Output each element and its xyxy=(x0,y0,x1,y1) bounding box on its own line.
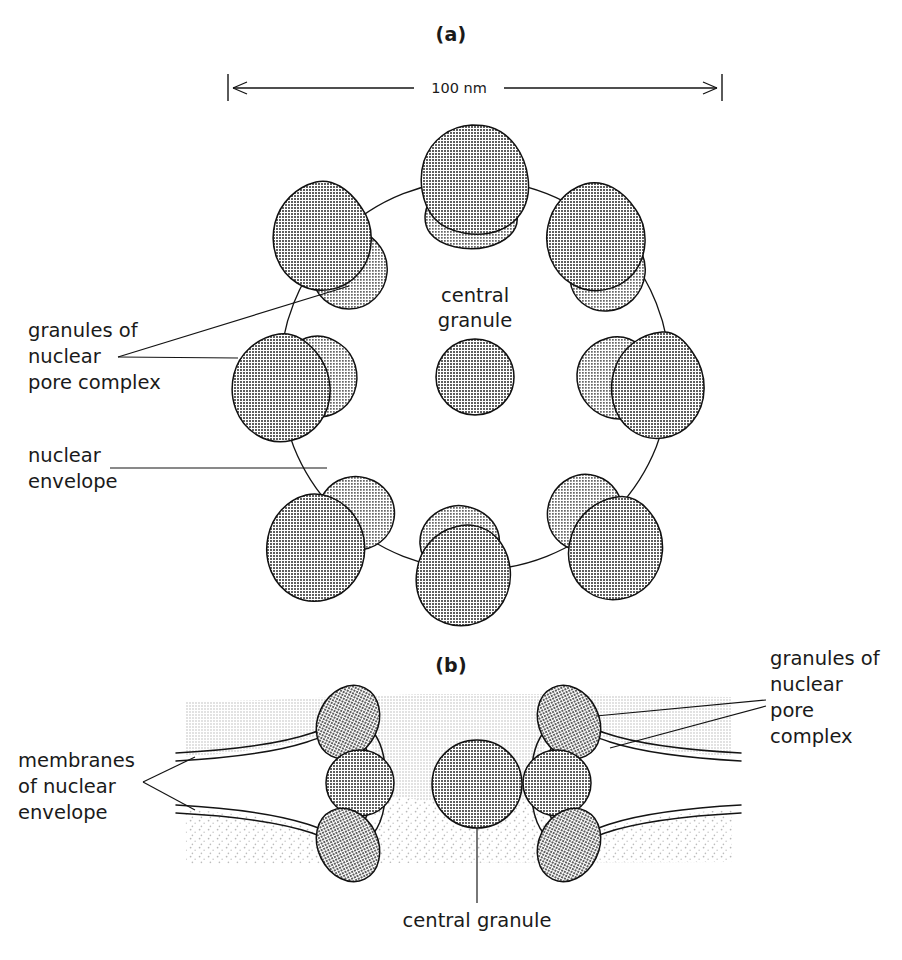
nuclear-pore-figure: (a) 100 nm xyxy=(0,0,902,960)
panel-a-label: (a) xyxy=(436,23,467,45)
annotation-central-granule-b: central granule xyxy=(403,909,552,932)
panel-a: (a) 100 nm xyxy=(28,23,722,626)
granule xyxy=(523,750,591,816)
granule-pair-upper-right xyxy=(547,183,646,311)
granule-pair-top xyxy=(421,125,528,249)
annot-line: granules of xyxy=(28,319,139,342)
granule-pair-upper-left xyxy=(273,181,387,309)
panel-b-label: (b) xyxy=(435,654,467,676)
granule xyxy=(326,750,394,816)
annot-line: pore xyxy=(770,699,814,722)
annot-line: complex xyxy=(770,725,853,748)
annotation-granules-npc-a: granules of nuclear pore complex xyxy=(28,319,161,394)
annotation-granules-npc-b: granules of nuclear pore complex xyxy=(770,647,881,748)
annot-line: granule xyxy=(438,309,512,332)
annot-line: envelope xyxy=(28,470,118,493)
annot-line: nuclear xyxy=(770,673,844,696)
annot-line: nuclear xyxy=(28,345,102,368)
granule-pair-left xyxy=(232,334,357,442)
central-granule-b xyxy=(432,740,522,828)
annot-line: central xyxy=(441,284,509,307)
scale-bar-label: 100 nm xyxy=(431,80,487,96)
annot-line: nuclear xyxy=(28,444,102,467)
granule-pair-right xyxy=(577,332,704,439)
annotation-nuclear-envelope-a: nuclear envelope xyxy=(28,444,118,493)
central-granule-a xyxy=(436,339,514,415)
annot-line: granules of xyxy=(770,647,881,670)
annotation-membranes-b: membranes of nuclear envelope xyxy=(18,749,135,824)
panel-b: (b) xyxy=(18,647,881,932)
annot-line: envelope xyxy=(18,801,108,824)
annot-line: membranes xyxy=(18,749,135,772)
figure-root: (a) 100 nm xyxy=(0,0,902,960)
scale-bar: 100 nm xyxy=(228,74,722,101)
granule-pair-lower-left xyxy=(267,477,395,602)
annot-line: pore complex xyxy=(28,371,161,394)
granule-pair-bottom xyxy=(416,506,510,626)
annotation-central-granule-a: central granule xyxy=(438,284,512,332)
annot-line: of nuclear xyxy=(18,775,117,798)
granule-pair-lower-right xyxy=(547,474,662,599)
